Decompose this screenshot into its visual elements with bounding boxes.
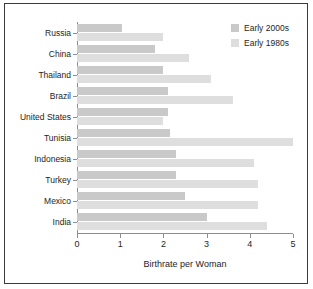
legend-swatch-early-1980s xyxy=(231,39,239,47)
legend-item-early-1980s: Early 1980s xyxy=(231,35,305,50)
category-label: Mexico xyxy=(0,196,71,206)
bar xyxy=(77,75,211,83)
bar xyxy=(77,66,163,74)
bar-group xyxy=(77,64,293,85)
x-tick xyxy=(207,234,208,238)
bar xyxy=(77,213,207,221)
bar xyxy=(77,150,176,158)
x-tick-label: 4 xyxy=(240,239,260,249)
x-tick-label: 2 xyxy=(153,239,173,249)
bar xyxy=(77,159,254,167)
bar xyxy=(77,108,168,116)
bar xyxy=(77,222,267,230)
category-label: United States xyxy=(0,112,71,122)
category-label: Turkey xyxy=(0,175,71,185)
category-label: Tunisia xyxy=(0,133,71,143)
bar xyxy=(77,201,258,209)
category-label: Thailand xyxy=(0,70,71,80)
bar xyxy=(77,129,170,137)
legend-swatch-early-2000s xyxy=(231,24,239,32)
x-tick-label: 5 xyxy=(283,239,303,249)
x-tick xyxy=(293,234,294,238)
bar xyxy=(77,180,258,188)
bar xyxy=(77,96,233,104)
x-tick-label: 1 xyxy=(110,239,130,249)
bar-group xyxy=(77,170,293,191)
bar xyxy=(77,54,189,62)
bar xyxy=(77,24,122,32)
bar xyxy=(77,45,155,53)
bar xyxy=(77,117,163,125)
x-tick-label: 0 xyxy=(67,239,87,249)
legend-item-early-2000s: Early 2000s xyxy=(231,20,305,35)
x-axis-line xyxy=(77,233,293,234)
x-axis-title: Birthrate per Woman xyxy=(77,259,293,269)
bar xyxy=(77,192,185,200)
bar-group xyxy=(77,212,293,233)
bar xyxy=(77,171,176,179)
category-label: Brazil xyxy=(0,91,71,101)
bar-group xyxy=(77,191,293,212)
category-label: Indonesia xyxy=(0,154,71,164)
x-tick xyxy=(250,234,251,238)
legend-label-early-1980s: Early 1980s xyxy=(244,38,289,48)
bar-group xyxy=(77,85,293,106)
x-tick xyxy=(120,234,121,238)
bar xyxy=(77,33,163,41)
bars-area xyxy=(77,22,293,233)
x-tick-label: 3 xyxy=(197,239,217,249)
bar-group xyxy=(77,128,293,149)
category-label: Russia xyxy=(0,28,71,38)
x-tick xyxy=(77,234,78,238)
category-label: China xyxy=(0,49,71,59)
chart-figure: RussiaChinaThailandBrazilUnited StatesTu… xyxy=(0,0,313,289)
bar-group xyxy=(77,106,293,127)
x-tick xyxy=(163,234,164,238)
category-label: India xyxy=(0,217,71,227)
bar-group xyxy=(77,149,293,170)
bar xyxy=(77,138,293,146)
bar xyxy=(77,87,168,95)
legend-label-early-2000s: Early 2000s xyxy=(244,23,289,33)
chart-legend: Early 2000s Early 1980s xyxy=(231,20,305,50)
